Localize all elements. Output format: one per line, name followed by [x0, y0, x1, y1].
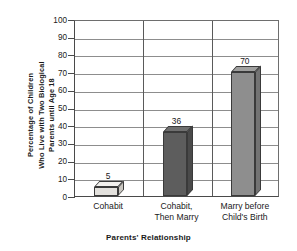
y-tick-mark [68, 197, 75, 198]
y-tick-label: 80 [0, 50, 74, 60]
y-tick-label: 70 [0, 68, 74, 78]
y-tick-label: 100 [0, 15, 74, 25]
x-category-line: Child's Birth [202, 212, 288, 223]
y-tick-label: 90 [0, 33, 74, 43]
y-tick-label: 60 [0, 86, 74, 96]
bar-front-face [94, 187, 118, 196]
bar-side-face [255, 66, 261, 196]
y-tick-label: 50 [0, 104, 74, 114]
y-tick-label: 40 [0, 121, 74, 131]
bar-value-label: 70 [225, 56, 265, 66]
bar-value-label: 36 [157, 116, 197, 126]
x-category-line: Marry before [202, 201, 288, 212]
y-tick-label: 0 [0, 192, 74, 202]
gridline [75, 39, 278, 40]
bar [231, 66, 255, 196]
bar [94, 181, 118, 196]
x-axis-title: Parents' Relationship [0, 233, 297, 242]
bar-front-face [163, 132, 187, 196]
category-divider [143, 21, 144, 196]
bar-side-face [187, 126, 193, 196]
bar [163, 126, 187, 196]
bar-value-label: 5 [88, 171, 128, 181]
x-category-label: Marry beforeChild's Birth [202, 201, 288, 223]
y-tick-label: 30 [0, 139, 74, 149]
bar-front-face [231, 72, 255, 196]
y-tick-label: 10 [0, 174, 74, 184]
y-tick-label: 20 [0, 157, 74, 167]
bar-chart: Percentage of Children Who Live with Two… [0, 0, 297, 251]
category-divider [212, 21, 213, 196]
